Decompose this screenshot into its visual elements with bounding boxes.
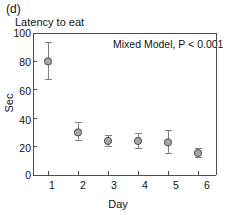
axes-frame xyxy=(33,33,216,175)
data-point-marker xyxy=(74,129,81,136)
plot-canvas xyxy=(0,0,236,216)
data-point-marker xyxy=(104,137,111,144)
y-axis-ticks xyxy=(33,33,37,175)
data-markers xyxy=(44,58,201,157)
data-point-marker xyxy=(194,149,201,156)
data-point-marker xyxy=(44,58,51,65)
data-point-marker xyxy=(164,139,171,146)
x-axis-ticks xyxy=(48,171,198,175)
data-point-marker xyxy=(134,137,141,144)
figure-panel-d: (d) Latency to eat Mixed Model, P < 0.00… xyxy=(0,0,236,216)
error-bars xyxy=(45,43,202,158)
